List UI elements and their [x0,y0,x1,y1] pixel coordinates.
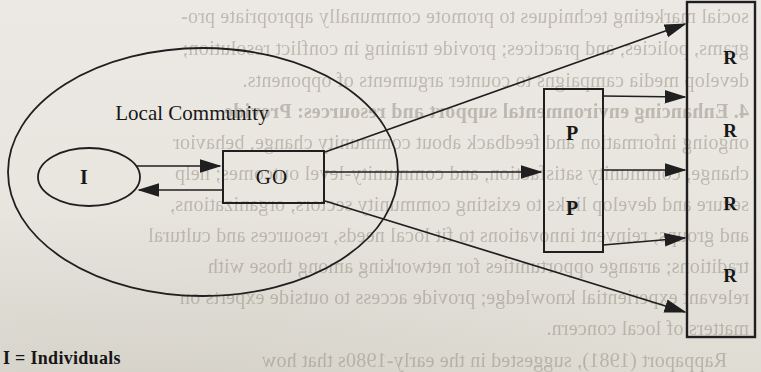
r-label-4: R [723,265,737,286]
arrow-go-to-r-top [325,24,685,152]
scanned-page: social marketing techniques to promote c… [0,0,761,372]
arrow-p-to-r-3 [603,238,685,245]
p-label-bottom: P [566,197,578,219]
go-label: GO [256,165,288,189]
arrow-go-to-r-bottom [325,201,685,312]
r-label-3: R [723,193,737,214]
figure-diagram: Local Community I GO P P R R R R [0,0,761,372]
p-box [544,89,603,252]
individuals-ellipse [38,148,140,206]
legend-text: I = Individuals [3,348,121,369]
arrow-p-to-r-1 [603,96,685,97]
r-label-1: R [723,47,737,68]
r-label-2: R [723,120,737,141]
individuals-label: I [80,166,88,188]
p-label-top: P [566,122,578,144]
r-box [687,2,755,337]
local-community-label: Local Community [115,101,269,125]
